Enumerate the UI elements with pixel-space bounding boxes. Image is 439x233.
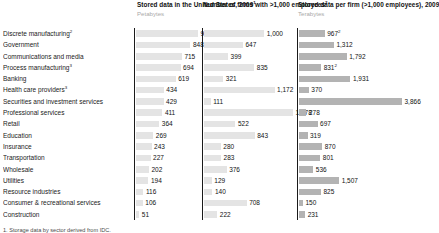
data-value: 231 [308,209,319,220]
data-value: 9672 [327,28,340,39]
row-label: Health care providers3 [3,84,131,95]
chart-row: Health care providers34341,172370 [0,84,405,95]
data-value: 825 [323,186,334,197]
data-bar [204,177,212,184]
measure-cell: 3,866 [297,96,404,107]
measure-cell: 111 [202,96,295,107]
data-bar [136,30,198,37]
data-bar [299,53,347,60]
chart-rows: Discrete manufacturing29661,0009672Gover… [0,28,405,220]
data-value: 227 [153,152,164,163]
measure-cell: 536 [297,164,404,175]
measure-cell: 129 [202,175,295,186]
measure-cell: 801 [297,152,404,163]
data-bar [299,166,313,173]
data-bar [204,30,264,37]
row-label: Retail [3,118,131,129]
measure-cell: 697 [297,118,404,129]
measure-cell: 321 [202,73,295,84]
data-bar [299,76,350,83]
data-bar [136,87,164,94]
data-value-superscript: 2 [338,29,340,34]
data-bar [299,64,321,71]
data-value: 111 [213,96,223,107]
data-value: 1,507 [342,175,358,186]
row-label: Construction [3,209,131,220]
measure-cell: 370 [297,84,404,95]
chart-row: Banking6193211,931 [0,73,405,84]
measure-cell: 825 [297,186,404,197]
measure-cell: 243 [134,141,200,152]
measure-cell: 708 [202,197,295,208]
data-value: 697 [320,118,331,129]
chart-row: Professional services4111,478278 [0,107,405,118]
column-subtitle: Petabytes [137,10,256,18]
row-label: Education [3,130,131,141]
data-value: 319 [310,130,321,141]
measure-cell: 280 [202,141,295,152]
data-bar [299,42,334,49]
data-bar [299,121,318,128]
column-title: Stored data per firm (>1,000 employees),… [298,1,439,9]
measure-cell: 522 [202,118,295,129]
chart-row: Wholesale202376536 [0,164,405,175]
measure-cell: 150 [297,197,404,208]
data-value: 370 [311,84,322,95]
data-bar [136,211,139,218]
data-bar [204,76,223,83]
chart-row: Utilities1941291,507 [0,175,405,186]
data-bar [204,121,235,128]
measure-cell: 222 [202,209,295,220]
data-bar [204,109,293,116]
data-bar [204,64,254,71]
data-bar [136,53,182,60]
data-value: 411 [165,107,175,118]
chart-row: Education269843319 [0,130,405,141]
data-value: 3,866 [405,96,421,107]
data-value: 522 [238,118,249,129]
data-value: 243 [154,141,165,152]
chart-row: Resource industries116140825 [0,186,405,197]
data-value: 1,792 [349,51,365,62]
row-label: Securities and investment services [3,96,131,107]
data-bar [299,200,303,207]
row-label: Insurance [3,141,131,152]
data-value: 116 [146,186,156,197]
row-label: Utilities [3,175,131,186]
data-value: 835 [257,62,268,73]
data-bar [204,98,211,105]
data-value: 8312 [324,62,337,73]
measure-cell: 227 [134,152,200,163]
data-bar [136,177,148,184]
data-bar [136,143,152,150]
data-value: 536 [316,164,327,175]
row-label: Resource industries [3,186,131,197]
measure-cell: 364 [134,118,200,129]
measure-cell: 231 [297,209,404,220]
data-value: 619 [178,73,189,84]
measure-cell: 619 [134,73,200,84]
measure-cell: 51 [134,209,200,220]
data-value: 140 [215,186,226,197]
measure-cell: 194 [134,175,200,186]
measure-cell: 269 [134,130,200,141]
measure-cell: 1,312 [297,39,404,50]
measure-cell: 1,792 [297,51,404,62]
chart-row: Discrete manufacturing29661,0009672 [0,28,405,39]
data-bar [136,121,159,128]
measure-cell: 8312 [297,62,404,73]
data-value: 364 [162,118,173,129]
data-bar [299,189,321,196]
measure-cell: 966 [134,28,200,39]
data-value: 269 [156,130,167,141]
data-bar [299,155,320,162]
data-bar [204,132,255,139]
data-value: 694 [183,62,194,73]
data-value: 129 [214,175,225,186]
data-value: 321 [226,73,237,84]
measure-cell: 116 [134,186,200,197]
data-bar [204,166,227,173]
row-label-superscript: 2 [70,29,72,34]
chart-row: Insurance243280870 [0,141,405,152]
